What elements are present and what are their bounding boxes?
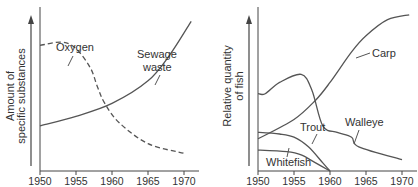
trout-label: Trout (300, 121, 325, 133)
x-tick-label: 1960 (318, 175, 342, 187)
x-tick-label: 1970 (390, 175, 414, 187)
x-tick-label: 1950 (246, 175, 270, 187)
x-tick-label: 1950 (28, 175, 52, 187)
sewage-label-line1: Sewage (137, 48, 177, 60)
x-tick-label: 1960 (100, 175, 124, 187)
left-y-arrowhead-icon (28, 15, 34, 24)
oxygen-leader (68, 56, 73, 66)
carp-line (258, 15, 409, 139)
x-tick-label: 1965 (354, 175, 378, 187)
oxygen-label: Oxygen (56, 41, 94, 53)
right-chart: 19501955196019651970 Relative quantity o… (221, 7, 417, 187)
walleye-leader (354, 130, 359, 144)
sewage-label-line2: waste (142, 61, 172, 73)
left-chart: 19501955196019651970 Amount of specific … (4, 7, 199, 187)
left-y-label-line2: specific substances (15, 48, 27, 144)
x-tick-label: 1970 (172, 175, 196, 187)
carp-label: Carp (372, 47, 396, 59)
sewage-leader (155, 75, 160, 85)
x-tick-label: 1965 (136, 175, 160, 187)
trout-leader (312, 134, 317, 144)
x-tick-label: 1955 (282, 175, 306, 187)
walleye-label: Walleye (345, 116, 384, 128)
right-y-label-line2: of fish (233, 71, 245, 100)
sewage-waste-line (40, 21, 191, 126)
x-tick-label: 1955 (64, 175, 88, 187)
right-y-label-line1: Relative quantity (221, 45, 233, 127)
fish-pollution-charts: 19501955196019651970 Amount of specific … (0, 0, 418, 187)
whitefish-label: Whitefish (266, 156, 311, 168)
carp-leader (356, 53, 370, 58)
right-y-arrowhead-icon (246, 15, 252, 24)
